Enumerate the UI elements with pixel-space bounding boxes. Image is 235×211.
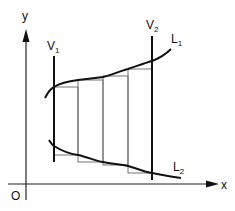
y-axis-label: y <box>22 9 28 23</box>
strip-rectangle-4 <box>128 69 152 173</box>
y-axis-arrow-icon <box>23 29 30 42</box>
x-axis-label: x <box>221 178 227 192</box>
v1-label: V1 <box>47 39 60 55</box>
strip-rectangle-3 <box>103 76 128 165</box>
origin-label: O <box>11 189 20 203</box>
strip-rectangle-2 <box>78 80 103 162</box>
l1-label: L1 <box>171 32 183 48</box>
curve-l2 <box>49 140 181 178</box>
area-between-curves-diagram: y x O V1 V2 L1 L2 <box>0 0 235 211</box>
axes <box>8 29 219 200</box>
riemann-rectangles <box>54 69 152 173</box>
l2-label: L2 <box>173 160 185 176</box>
strip-rectangle-1 <box>54 87 78 155</box>
x-axis-arrow-icon <box>206 181 219 188</box>
v2-label: V2 <box>146 18 159 34</box>
